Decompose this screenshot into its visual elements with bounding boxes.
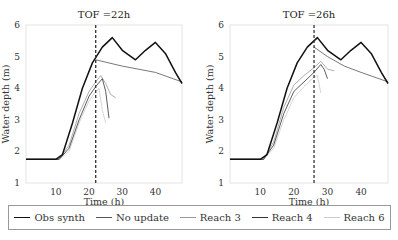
y-tick-label: 3 bbox=[218, 115, 224, 125]
x-axis-label: Time (h) bbox=[84, 196, 125, 205]
chart-title: TOF =22h bbox=[78, 9, 131, 20]
y-tick-label: 2 bbox=[218, 146, 224, 156]
legend-swatch bbox=[14, 217, 30, 218]
legend-label: Obs synth bbox=[34, 212, 85, 223]
legend-label: Reach 3 bbox=[200, 212, 241, 223]
x-tick-label: 40 bbox=[355, 187, 367, 197]
legend-item-reach-3: Reach 3 bbox=[180, 212, 241, 223]
y-axis-label: Water depth (m) bbox=[0, 65, 11, 144]
series-line bbox=[26, 88, 106, 159]
legend-label: Reach 6 bbox=[344, 212, 385, 223]
y-tick-label: 4 bbox=[218, 83, 224, 93]
legend-item-no-update: No update bbox=[96, 212, 169, 223]
legend-label: Reach 4 bbox=[272, 212, 313, 223]
series-line bbox=[26, 38, 182, 160]
x-tick-label: 10 bbox=[255, 187, 267, 197]
y-tick-label: 3 bbox=[14, 115, 20, 125]
series-line bbox=[230, 61, 334, 159]
legend: Obs synth No update Reach 3 Reach 4 Reac… bbox=[8, 205, 391, 230]
y-axis-label: Water depth (m) bbox=[204, 65, 215, 144]
y-tick-label: 5 bbox=[218, 52, 224, 62]
legend-item-reach-4: Reach 4 bbox=[252, 212, 313, 223]
y-tick-label: 1 bbox=[218, 178, 224, 188]
series-line bbox=[230, 76, 321, 160]
legend-item-obs-synth: Obs synth bbox=[14, 212, 85, 223]
y-tick-label: 2 bbox=[14, 146, 20, 156]
series-line bbox=[230, 38, 388, 160]
legend-swatch bbox=[96, 217, 112, 218]
series-line bbox=[96, 60, 182, 82]
y-tick-label: 4 bbox=[14, 83, 20, 93]
x-axis-label: Time (h) bbox=[289, 196, 330, 205]
y-tick-label: 6 bbox=[14, 20, 20, 30]
chart-canvas: 12345610203040TOF =22hTime (h)Water dept… bbox=[0, 0, 398, 205]
x-tick-label: 10 bbox=[50, 187, 62, 197]
y-tick-label: 1 bbox=[14, 178, 20, 188]
legend-label: No update bbox=[116, 212, 169, 223]
y-tick-label: 5 bbox=[14, 52, 20, 62]
y-tick-label: 6 bbox=[218, 20, 224, 30]
legend-item-reach-6: Reach 6 bbox=[324, 212, 385, 223]
legend-swatch bbox=[324, 217, 340, 218]
legend-swatch bbox=[252, 217, 268, 218]
chart-title: TOF =26h bbox=[283, 9, 336, 20]
x-tick-label: 40 bbox=[150, 187, 162, 197]
legend-swatch bbox=[180, 217, 196, 218]
